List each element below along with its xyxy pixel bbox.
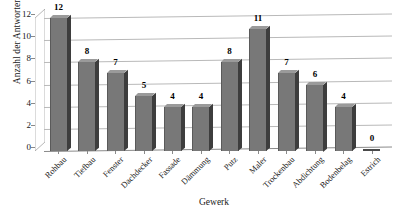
bar-chart: Anzahl der Antworten 024681012 128754481… [0, 0, 396, 220]
y-tick-mark [31, 147, 35, 148]
x-axis-ticks: RohbauTiefbauFensterDachdeckerFassadeDäm… [44, 151, 386, 196]
bar-top-face [221, 59, 241, 62]
bar-top-face [335, 104, 355, 107]
bar-side-face [95, 60, 99, 151]
x-tick-mark [258, 151, 259, 154]
bar-top-face [249, 26, 269, 29]
bar-side-face [181, 104, 185, 151]
bar: 8 [221, 62, 238, 151]
bar-value-label: 4 [199, 92, 204, 101]
bar-top-face [164, 104, 184, 107]
bar-front-face [335, 107, 353, 151]
bar-value-label: 7 [113, 58, 118, 67]
x-tick-mark [115, 151, 116, 154]
y-tick-mark [31, 125, 35, 126]
bar: 5 [135, 96, 152, 151]
bar-top-face [135, 93, 155, 96]
x-axis-title: Gewerk [0, 197, 396, 207]
bar-value-label: 12 [54, 3, 63, 12]
y-tick-mark [31, 81, 35, 82]
bar-front-face [278, 73, 296, 151]
bar-front-face [107, 73, 125, 151]
bar: 4 [164, 107, 181, 151]
bar-top-face [306, 82, 326, 85]
bar-value-label: 8 [85, 47, 90, 56]
bar-value-label: 0 [370, 134, 375, 143]
bar-value-label: 7 [284, 58, 289, 67]
bar: 7 [107, 73, 124, 151]
bar-front-face [135, 96, 153, 151]
y-tick-mark [31, 36, 35, 37]
y-tick-mark [31, 58, 35, 59]
x-tick-mark [58, 151, 59, 154]
bar-front-face [50, 18, 68, 151]
x-tick-mark [201, 151, 202, 154]
y-tick-label: 10 [1, 32, 31, 41]
bar: 7 [278, 73, 295, 151]
gridline [44, 36, 392, 42]
bar-front-face [164, 107, 182, 151]
y-tick-label: 12 [1, 10, 31, 19]
bar-front-face [78, 62, 96, 151]
bar-top-face [278, 70, 298, 73]
bar-side-face [152, 93, 156, 151]
bar: 11 [249, 29, 266, 151]
bar-value-label: 5 [142, 81, 147, 90]
x-tick-mark [172, 151, 173, 154]
bar: 6 [306, 85, 323, 152]
bar-top-face [107, 70, 127, 73]
bar-front-face [221, 62, 239, 151]
bar: 4 [192, 107, 209, 151]
bar-side-face [67, 15, 71, 151]
x-tick-mark [372, 151, 373, 154]
x-axis-title-text: Gewerk [199, 197, 229, 207]
bar-side-face [238, 60, 242, 151]
bar-side-face [295, 71, 299, 151]
bar-value-label: 4 [170, 92, 175, 101]
y-tick-label: 8 [1, 54, 31, 63]
bar-value-label: 4 [341, 92, 346, 101]
bar-side-face [266, 26, 270, 151]
x-tick-mark [343, 151, 344, 154]
y-tick-mark [31, 14, 35, 15]
bar: 12 [50, 18, 67, 151]
y-tick-mark [31, 103, 35, 104]
x-tick-mark [144, 151, 145, 154]
bar: 8 [78, 62, 95, 151]
bar-value-label: 6 [313, 70, 318, 79]
x-tick-mark [87, 151, 88, 154]
x-tick-mark [286, 151, 287, 154]
bar-top-face [192, 104, 212, 107]
gridline [44, 13, 392, 19]
bar-front-face [306, 85, 324, 152]
x-tick-mark [315, 151, 316, 154]
bar-front-face [249, 29, 267, 151]
y-tick-label: 0 [1, 143, 31, 152]
bar-value-label: 11 [254, 14, 263, 23]
y-tick-label: 2 [1, 120, 31, 129]
x-tick-mark [229, 151, 230, 154]
bar-side-face [124, 71, 128, 151]
bar-front-face [192, 107, 210, 151]
y-tick-label: 6 [1, 76, 31, 85]
y-tick-label: 4 [1, 98, 31, 107]
bar: 4 [335, 107, 352, 151]
bar-side-face [209, 104, 213, 151]
bar-side-face [323, 82, 327, 151]
bar-value-label: 8 [227, 47, 232, 56]
plot-area: 024681012 12875448117640 [44, 18, 386, 151]
bar-top-face [50, 15, 70, 18]
bar-side-face [352, 104, 356, 151]
